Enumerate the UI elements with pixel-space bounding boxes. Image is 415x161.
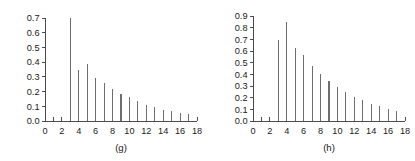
- y-tick-label: 0.9: [235, 11, 248, 21]
- y-tick-label: 0.7: [27, 13, 40, 23]
- x-tick-label: 14: [366, 126, 376, 136]
- chart-panel-h: 0.00.10.20.30.40.50.60.70.80.90246810121…: [207, 0, 415, 161]
- x-tick-label: 18: [192, 126, 202, 136]
- x-tick-label: 8: [318, 126, 323, 136]
- y-tick-label: 0.0: [235, 116, 248, 126]
- x-tick-label: 14: [158, 126, 168, 136]
- x-tick-label: 16: [383, 126, 393, 136]
- y-tick-label: 0.5: [235, 58, 248, 68]
- y-tick-label: 0.5: [27, 43, 40, 53]
- x-tick-label: 10: [332, 126, 342, 136]
- x-tick-label: 8: [110, 126, 115, 136]
- x-tick-label: 6: [301, 126, 306, 136]
- y-tick-label: 0.6: [27, 28, 40, 38]
- x-tick-label: 4: [76, 126, 81, 136]
- x-tick-label: 12: [141, 126, 151, 136]
- stem-plot-g: 0.00.10.20.30.40.50.60.7024681012141618(…: [0, 0, 207, 161]
- y-tick-label: 0.1: [27, 102, 40, 112]
- y-tick-label: 0.7: [235, 35, 248, 45]
- panel-caption: (g): [115, 142, 127, 153]
- x-tick-label: 12: [349, 126, 359, 136]
- x-tick-label: 16: [175, 126, 185, 136]
- y-tick-label: 0.2: [27, 87, 40, 97]
- y-tick-label: 0.3: [235, 81, 248, 91]
- panel-caption: (h): [323, 142, 335, 153]
- stem-plot-h: 0.00.10.20.30.40.50.60.70.80.90246810121…: [207, 0, 415, 161]
- x-tick-label: 4: [284, 126, 289, 136]
- figure-two-panel-stem-plots: 0.00.10.20.30.40.50.60.7024681012141618(…: [0, 0, 415, 161]
- x-tick-label: 2: [267, 126, 272, 136]
- x-tick-label: 10: [124, 126, 134, 136]
- x-tick-label: 18: [400, 126, 410, 136]
- x-tick-label: 2: [59, 126, 64, 136]
- y-tick-label: 0.4: [27, 57, 40, 67]
- chart-panel-g: 0.00.10.20.30.40.50.60.7024681012141618(…: [0, 0, 207, 161]
- y-tick-label: 0.0: [27, 116, 40, 126]
- x-tick-label: 6: [93, 126, 98, 136]
- y-tick-label: 0.3: [27, 72, 40, 82]
- y-tick-label: 0.8: [235, 23, 248, 33]
- y-tick-label: 0.6: [235, 46, 248, 56]
- y-tick-label: 0.2: [235, 93, 248, 103]
- y-tick-label: 0.1: [235, 105, 248, 115]
- x-tick-label: 0: [42, 126, 47, 136]
- x-tick-label: 0: [250, 126, 255, 136]
- y-tick-label: 0.4: [235, 70, 248, 80]
